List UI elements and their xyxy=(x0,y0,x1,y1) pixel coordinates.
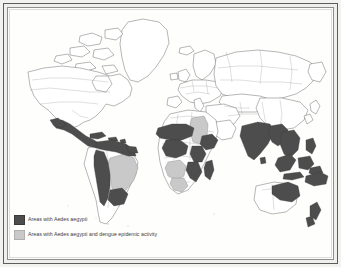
region-west-africa xyxy=(156,124,194,140)
dark-gray-swatch-icon xyxy=(14,215,25,225)
japan-outline xyxy=(310,100,320,114)
arctic-island-b xyxy=(105,28,123,40)
map-legend: Areas with Aedes aegypti Areas with Aede… xyxy=(14,215,314,245)
arctic-island-d xyxy=(93,48,114,60)
arctic-island-e xyxy=(54,54,72,64)
region-indochina-east xyxy=(280,130,300,158)
region-brazil xyxy=(108,154,138,194)
region-madagascar xyxy=(204,160,214,180)
arctic-island-a xyxy=(79,33,102,46)
british-isles-outline xyxy=(178,69,190,82)
legend-item-endemic: Areas with Aedes aegypti xyxy=(14,215,314,225)
world-map-figure: Areas with Aedes aegypti Areas with Aede… xyxy=(10,10,331,257)
north-america-outline xyxy=(28,66,132,128)
light-gray-swatch-icon xyxy=(14,230,25,240)
screenshot-root: Areas with Aedes aegypti Areas with Aede… xyxy=(0,0,341,267)
greenland-outline xyxy=(120,19,169,82)
ireland-outline xyxy=(170,73,178,80)
legend-item-epidemic: Areas with Aedes aegypti and dengue epid… xyxy=(14,230,314,240)
region-caribbean-cuba xyxy=(90,132,106,139)
russia-outline xyxy=(214,50,318,100)
legend-label-endemic: Areas with Aedes aegypti xyxy=(28,217,87,222)
region-java xyxy=(283,172,304,180)
iceland-outline xyxy=(179,46,194,55)
japan-outline-south xyxy=(304,114,313,124)
arctic-island-g xyxy=(102,65,118,74)
region-sumatra xyxy=(275,154,296,172)
arctic-island-c xyxy=(70,46,90,57)
legend-label-epidemic: Areas with Aedes aegypti and dengue epid… xyxy=(28,232,157,237)
region-sri-lanka xyxy=(260,157,266,164)
region-papua-new-guinea xyxy=(305,172,328,186)
region-philippines xyxy=(306,138,316,154)
iberia-outline xyxy=(167,96,182,108)
scandinavia-outline xyxy=(193,50,216,80)
region-india xyxy=(240,122,274,160)
